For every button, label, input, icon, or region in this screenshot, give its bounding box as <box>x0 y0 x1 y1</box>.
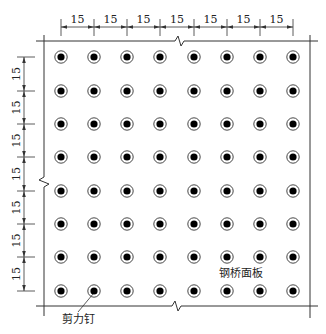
shear-stud-layout-diagram: 15151515151515 15151515151515 剪力钉 钢桥面板 <box>0 0 326 334</box>
arrowhead <box>260 25 266 29</box>
shear-stud <box>55 118 67 130</box>
arrowhead <box>22 118 26 124</box>
shear-stud <box>121 85 133 97</box>
shear-stud <box>121 285 133 297</box>
arrowhead <box>22 185 26 191</box>
arrowhead <box>22 85 26 91</box>
shear-stud <box>188 285 200 297</box>
arrowhead <box>22 224 26 230</box>
shear-stud <box>121 185 133 197</box>
shear-stud <box>287 218 299 230</box>
shear-stud <box>188 51 200 63</box>
vertical-spacing-label: 15 <box>10 67 23 81</box>
shear-stud <box>121 251 133 263</box>
shear-stud <box>287 51 299 63</box>
shear-stud <box>88 85 100 97</box>
arrowhead <box>22 157 26 163</box>
shear-stud <box>287 185 299 197</box>
arrowhead <box>22 257 26 263</box>
shear-stud <box>188 151 200 163</box>
arrowhead <box>22 191 26 197</box>
vertical-spacing-label: 15 <box>10 101 23 115</box>
shear-stud <box>221 218 233 230</box>
shear-stud <box>121 118 133 130</box>
shear-stud <box>88 285 100 297</box>
shear-stud <box>287 285 299 297</box>
shear-stud <box>55 151 67 163</box>
shear-stud <box>221 151 233 163</box>
shear-stud <box>221 118 233 130</box>
arrowhead <box>154 25 160 29</box>
shear-stud <box>287 85 299 97</box>
arrowhead <box>88 25 94 29</box>
shear-stud <box>287 251 299 263</box>
shear-stud <box>221 185 233 197</box>
shear-stud <box>254 51 266 63</box>
shear-stud <box>121 51 133 63</box>
shear-stud <box>254 285 266 297</box>
arrowhead <box>188 25 194 29</box>
shear-stud <box>188 218 200 230</box>
shear-stud <box>154 251 166 263</box>
arrowhead <box>22 57 26 63</box>
shear-stud <box>154 285 166 297</box>
arrowhead <box>127 25 133 29</box>
arrowhead <box>94 25 100 29</box>
shear-stud <box>188 118 200 130</box>
top-dimension-chain: 15151515151515 <box>61 13 293 36</box>
shear-stud <box>287 118 299 130</box>
shear-stud <box>88 185 100 197</box>
stud-label: 剪力钉 <box>62 312 95 326</box>
shear-stud <box>55 85 67 97</box>
shear-stud <box>55 218 67 230</box>
arrowhead <box>22 218 26 224</box>
shear-stud <box>154 151 166 163</box>
shear-stud <box>88 151 100 163</box>
shear-stud <box>221 251 233 263</box>
arrowhead <box>22 151 26 157</box>
shear-stud <box>254 185 266 197</box>
arrowhead <box>227 25 233 29</box>
vertical-spacing-label: 15 <box>10 167 23 181</box>
shear-stud <box>88 118 100 130</box>
shear-stud <box>221 51 233 63</box>
shear-stud <box>188 251 200 263</box>
bottom-edge-with-break <box>36 301 318 311</box>
shear-stud <box>254 85 266 97</box>
shear-stud <box>254 151 266 163</box>
shear-stud <box>154 51 166 63</box>
shear-stud <box>154 85 166 97</box>
arrowhead <box>121 25 127 29</box>
arrowhead <box>254 25 260 29</box>
shear-stud <box>55 285 67 297</box>
shear-stud <box>55 51 67 63</box>
shear-stud <box>88 218 100 230</box>
horizontal-spacing-label: 15 <box>71 13 85 26</box>
shear-stud <box>254 251 266 263</box>
arrowhead <box>22 285 26 291</box>
shear-stud <box>254 118 266 130</box>
left-edge-with-break <box>39 35 49 316</box>
horizontal-spacing-label: 15 <box>137 13 151 26</box>
shear-stud <box>287 151 299 163</box>
vertical-spacing-label: 15 <box>10 134 23 148</box>
shear-stud <box>121 151 133 163</box>
vertical-spacing-label: 15 <box>10 267 23 281</box>
shear-stud <box>188 185 200 197</box>
shear-stud <box>55 251 67 263</box>
horizontal-spacing-label: 15 <box>270 13 284 26</box>
shear-stud <box>121 218 133 230</box>
arrowhead <box>22 251 26 257</box>
deck-plate-label: 钢桥面板 <box>219 266 263 280</box>
arrowhead <box>160 25 166 29</box>
shear-stud <box>221 85 233 97</box>
stud-leader-line <box>78 294 93 312</box>
arrowhead <box>22 124 26 130</box>
shear-stud-grid <box>55 51 299 297</box>
shear-stud <box>55 185 67 197</box>
shear-stud <box>221 285 233 297</box>
horizontal-spacing-label: 15 <box>104 13 118 26</box>
shear-stud <box>88 51 100 63</box>
arrowhead <box>194 25 200 29</box>
arrowhead <box>287 25 293 29</box>
